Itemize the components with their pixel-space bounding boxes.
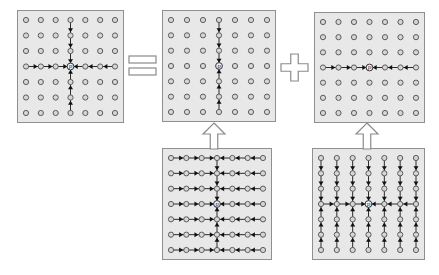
panel-top-middle-vertical-aggregation: p bbox=[162, 10, 276, 122]
propagation-decomposition-figure: p p p p p bbox=[0, 0, 439, 275]
plus-operator-icon bbox=[279, 52, 310, 83]
svg-text:p: p bbox=[69, 63, 73, 70]
svg-text:p: p bbox=[215, 201, 219, 208]
panel-bottom-left-row-scan-aggregation: p bbox=[162, 148, 272, 260]
svg-text:p: p bbox=[367, 201, 371, 208]
panel-bottom-right-col-scan-aggregation: p bbox=[312, 148, 425, 260]
equals-operator-icon bbox=[127, 54, 158, 77]
svg-text:p: p bbox=[217, 63, 221, 70]
derive-up-arrow-left-icon bbox=[201, 121, 227, 151]
svg-text:p: p bbox=[368, 64, 372, 71]
panel-top-right-horizontal-aggregation: p bbox=[314, 12, 425, 123]
panel-top-left-cross-aggregation: p bbox=[17, 10, 124, 123]
derive-up-arrow-right-icon bbox=[354, 121, 380, 151]
